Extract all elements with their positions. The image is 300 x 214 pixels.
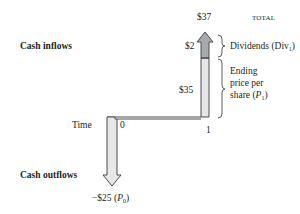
time-1-label: 1 — [206, 126, 211, 136]
time-axis-label: Time — [72, 121, 92, 131]
price-brace — [218, 59, 225, 118]
total-label: TOTAL — [252, 15, 275, 22]
cash-flow-diagram — [0, 0, 300, 214]
dividend-label: Dividends (Div1) — [230, 42, 295, 52]
cash-outflows-label: Cash outflows — [20, 171, 77, 181]
outflow-arrow — [103, 117, 121, 186]
price-label: Ending price per share (P1) — [230, 65, 268, 104]
price-shaft — [201, 58, 209, 117]
time-0-label: 0 — [120, 121, 125, 131]
total-value: $37 — [197, 13, 211, 23]
dividend-value: $2 — [185, 42, 195, 52]
dividend-brace — [218, 35, 225, 57]
price-value: $35 — [179, 86, 193, 96]
dividend-arrow-head — [197, 32, 213, 58]
outflow-value: −$25 (P0) — [92, 194, 129, 204]
cash-inflows-label: Cash inflows — [20, 42, 72, 52]
